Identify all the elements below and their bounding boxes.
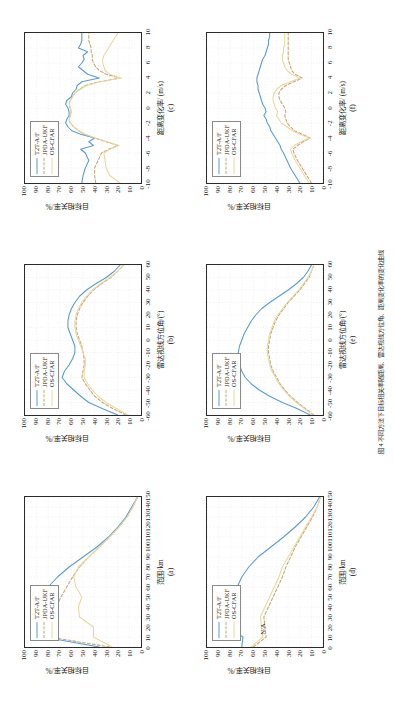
x-tick-label: -10 xyxy=(144,179,152,188)
legend-label: JPDA-UKF xyxy=(223,357,231,387)
x-tick-label: -50 xyxy=(326,399,334,408)
x-tick-label: -10 xyxy=(326,179,334,188)
legend-swatch-icon xyxy=(49,622,55,638)
legend-item: T2T-A/F xyxy=(215,589,223,638)
legend-label: T2T-A/F xyxy=(33,365,41,388)
x-tick-label: 140 xyxy=(326,501,334,512)
x-tick-label: 40 xyxy=(144,286,152,293)
x-tick-label: 10 xyxy=(326,29,334,36)
x-tick-label: 10 xyxy=(326,634,334,641)
x-tick-label: -6 xyxy=(144,151,152,157)
legend-swatch-icon xyxy=(223,390,229,406)
y-axis-label: 目标相关率/% xyxy=(199,666,299,676)
x-tick-label: 130 xyxy=(144,511,152,522)
figure-caption: 图 4 不同方法下目标相关率随距离、雷达视线方位角、距离变化率的变化曲线 xyxy=(376,0,385,704)
x-tick-label: 60 xyxy=(144,261,152,268)
legend-swatch-icon xyxy=(216,390,222,406)
na-annotation: N/A xyxy=(259,623,266,634)
x-tick-label: 30 xyxy=(144,299,152,306)
legend-label: T2T-A/F xyxy=(33,133,41,156)
series-line-jpda-ukf xyxy=(76,265,126,415)
x-tick-label: -4 xyxy=(326,135,334,141)
legend-swatch-icon xyxy=(216,622,222,638)
x-tick-label: 50 xyxy=(144,273,152,280)
x-tick-label: -30 xyxy=(326,373,334,382)
x-tick-label: -8 xyxy=(326,166,334,172)
x-tick-label: 20 xyxy=(144,624,152,631)
y-tick-label: 0 xyxy=(138,186,146,208)
x-tick-label: -10 xyxy=(326,348,334,357)
chart-panel-f: 0102030405060708090100目标相关率/%T2T-A/FJPDA… xyxy=(198,20,368,224)
x-tick-label: 20 xyxy=(144,311,152,318)
legend: T2T-A/FJPDA-UKFOS-CFAR xyxy=(30,353,59,409)
x-axis-label: 范围/km xyxy=(337,496,347,648)
x-tick-label: 10 xyxy=(144,29,152,36)
x-tick-label: 0 xyxy=(144,338,152,342)
x-tick-label: 0 xyxy=(144,106,152,110)
x-tick-label: -60 xyxy=(144,411,152,420)
x-tick-label: 4 xyxy=(326,76,334,80)
legend-label: JPDA-UKF xyxy=(41,589,49,619)
x-tick-label: -20 xyxy=(144,361,152,370)
x-tick-label: 6 xyxy=(144,61,152,65)
y-tick-label: 10 xyxy=(308,186,316,208)
x-tick-label: 40 xyxy=(326,604,334,611)
legend-label: OS-CFAR xyxy=(48,360,56,387)
y-tick-label: 0 xyxy=(320,418,328,440)
legend-label: OS-CFAR xyxy=(230,128,238,155)
x-tick-label: 150 xyxy=(326,491,334,502)
y-tick-label: 0 xyxy=(138,650,146,672)
x-tick-label: 0 xyxy=(326,338,334,342)
x-tick-label: 120 xyxy=(326,521,334,532)
x-tick-label: 60 xyxy=(144,584,152,591)
x-axis-label: 雷达视线方位角/(°) xyxy=(155,264,165,416)
legend-item: T2T-A/F xyxy=(215,125,223,174)
chart-panel-e: 0102030405060708090100目标相关率/%T2T-A/FJPDA… xyxy=(198,252,368,456)
x-tick-label: 90 xyxy=(144,553,152,560)
legend-item: T2T-A/F xyxy=(33,589,41,638)
x-tick-label: 2 xyxy=(326,91,334,95)
x-tick-label: 50 xyxy=(326,273,334,280)
y-axis-label: 目标相关率/% xyxy=(199,434,299,444)
legend-swatch-icon xyxy=(231,622,237,638)
x-tick-label: -60 xyxy=(326,411,334,420)
legend: T2T-A/FJPDA-UKFOS-CFAR xyxy=(212,121,241,177)
legend-swatch-icon xyxy=(216,158,222,174)
x-axis-label: 距离变化率/ (m/s) xyxy=(337,32,347,184)
y-tick-label: 10 xyxy=(308,650,316,672)
x-tick-label: -4 xyxy=(144,135,152,141)
x-tick-label: 8 xyxy=(326,45,334,49)
x-tick-label: 6 xyxy=(326,61,334,65)
x-tick-label: -8 xyxy=(144,166,152,172)
x-tick-label: 30 xyxy=(144,614,152,621)
x-tick-label: 70 xyxy=(144,574,152,581)
x-tick-label: -6 xyxy=(326,151,334,157)
panel-letter-e: (e) xyxy=(348,264,357,416)
x-tick-label: 4 xyxy=(144,76,152,80)
legend-swatch-icon xyxy=(41,158,47,174)
x-tick-label: 10 xyxy=(326,324,334,331)
x-tick-label: 140 xyxy=(144,501,152,512)
legend-swatch-icon xyxy=(231,158,237,174)
panel-letter-a: (a) xyxy=(166,496,175,648)
x-tick-label: 60 xyxy=(326,261,334,268)
x-tick-label: -30 xyxy=(144,373,152,382)
x-tick-label: 2 xyxy=(144,91,152,95)
legend-label: T2T-A/F xyxy=(215,365,223,388)
y-tick-label: 0 xyxy=(320,650,328,672)
y-axis-label: 目标相关率/% xyxy=(199,202,299,212)
legend-label: T2T-A/F xyxy=(215,597,223,620)
legend: T2T-A/FJPDA-UKFOS-CFAR xyxy=(30,585,59,641)
x-tick-label: 10 xyxy=(144,634,152,641)
plot-area-e: T2T-A/FJPDA-UKFOS-CFAR xyxy=(206,264,324,416)
panel-letter-c: (c) xyxy=(166,32,175,184)
legend-item: OS-CFAR xyxy=(48,589,56,638)
x-tick-label: 0 xyxy=(326,646,334,650)
x-tick-label: 110 xyxy=(144,531,152,541)
panel-letter-f: (f) xyxy=(348,32,357,184)
plot-area-b: T2T-A/FJPDA-UKFOS-CFAR xyxy=(24,264,142,416)
legend-item: OS-CFAR xyxy=(230,589,238,638)
legend-item: JPDA-UKF xyxy=(223,357,231,406)
x-tick-label: 110 xyxy=(326,531,334,541)
chart-panel-d: 0102030405060708090100目标相关率/%T2T-A/FJPDA… xyxy=(198,484,368,688)
